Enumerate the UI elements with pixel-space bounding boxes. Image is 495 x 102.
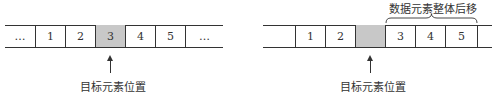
left-pointer-arrow-shaft	[110, 60, 111, 73]
right-pointer-arrow-shaft	[370, 60, 371, 73]
right-cell-empty	[263, 25, 295, 47]
right-cell-target-empty	[355, 25, 385, 47]
right-cell-1: 1	[295, 25, 325, 47]
right-cell-4: 4	[415, 25, 445, 47]
right-array-bottom-rail	[263, 47, 492, 48]
right-cell-2: 2	[325, 25, 355, 47]
left-cell-1: 1	[35, 25, 65, 47]
right-cell-5: 5	[445, 25, 477, 47]
left-cell-ellipsis-end: …	[185, 25, 223, 47]
left-cell-5: 5	[155, 25, 185, 47]
right-cell-trailing	[477, 25, 492, 47]
right-pointer-caption: 目标元素位置	[340, 78, 406, 94]
left-pointer-caption: 目标元素位置	[80, 78, 146, 94]
shift-brace-caption: 数据元素整体后移	[389, 0, 477, 16]
left-cell-ellipsis-start: …	[5, 25, 35, 47]
left-cell-2: 2	[65, 25, 95, 47]
left-cell-target-3: 3	[95, 25, 125, 47]
left-cell-4: 4	[125, 25, 155, 47]
right-cell-3: 3	[385, 25, 415, 47]
left-array-bottom-rail	[5, 47, 223, 48]
array-insertion-diagram: … 1 2 3 4 5 … 目标元素位置 1 2 3 4 5 数据元素整体后移 …	[0, 0, 495, 102]
